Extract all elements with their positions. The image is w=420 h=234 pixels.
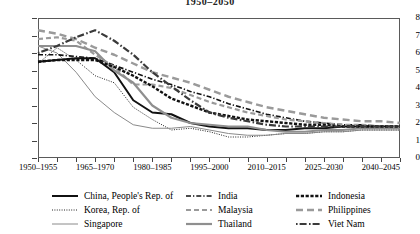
legend-swatch-china [52, 191, 78, 201]
legend-swatch-india [186, 191, 212, 201]
x-tick-mark [57, 158, 58, 162]
legend-item-indonesia[interactable]: Indonesia [296, 189, 371, 203]
legend-item-china[interactable]: China, People's Rep. of [52, 189, 173, 203]
legend-column: China, People's Rep. ofKorea, Rep. ofSin… [52, 189, 173, 231]
legend-item-thailand[interactable]: Thailand [186, 217, 253, 231]
legend-label: Thailand [218, 219, 252, 229]
x-tick-label: 1995–2000 [183, 163, 235, 172]
y-tick-mark [32, 53, 37, 54]
legend-swatch-malaysia [186, 205, 212, 215]
legend-item-india[interactable]: India [186, 189, 253, 203]
legend-label: Viet Nam [328, 219, 365, 229]
legend-label: Philippines [328, 205, 371, 215]
legend-label: India [218, 191, 238, 201]
y-tick-label: 6 [394, 48, 420, 57]
x-tick-label: 2040–2045 [355, 163, 407, 172]
y-tick-mark [32, 71, 37, 72]
y-tick-mark [32, 18, 37, 19]
x-tick-label: 1965–1970 [69, 163, 121, 172]
y-tick-mark [32, 106, 37, 107]
y-tick-label: 4 [394, 83, 420, 92]
y-tick-mark [32, 36, 37, 37]
chart-figure: 1950–2050 012345678 1950–19551965–197019… [0, 0, 420, 234]
x-tick-label: 2010–2015 [241, 163, 293, 172]
x-tick-mark [229, 158, 230, 162]
x-tick-mark [286, 158, 287, 162]
legend-label: Singapore [84, 219, 123, 229]
legend-label: Korea, Rep. of [84, 205, 140, 215]
legend-label: Malaysia [218, 205, 253, 215]
legend-item-philippines[interactable]: Philippines [296, 203, 371, 217]
legend-label: Indonesia [328, 191, 365, 201]
y-tick-mark [32, 141, 37, 142]
x-tick-mark [400, 158, 401, 162]
legend-item-malaysia[interactable]: Malaysia [186, 203, 253, 217]
legend-swatch-indonesia [296, 191, 322, 201]
x-tick-mark [171, 158, 172, 162]
legend-item-singapore[interactable]: Singapore [52, 217, 173, 231]
line-series-vietnam [38, 30, 400, 126]
legend-swatch-vietnam [296, 219, 322, 229]
legend-column: IndiaMalaysiaThailand [186, 189, 253, 231]
legend-swatch-korea [52, 205, 78, 215]
y-tick-mark [32, 158, 37, 159]
x-tick-mark [343, 158, 344, 162]
chart-title: 1950–2050 [0, 0, 420, 5]
y-tick-label: 3 [394, 101, 420, 110]
y-tick-mark [32, 123, 37, 124]
legend-swatch-thailand [186, 219, 212, 229]
series-lines [38, 18, 400, 158]
legend-item-vietnam[interactable]: Viet Nam [296, 217, 371, 231]
line-series-philippines [38, 30, 400, 123]
x-tick-label: 2025–2030 [298, 163, 350, 172]
x-tick-label: 1980–1985 [126, 163, 178, 172]
legend-label: China, People's Rep. of [84, 191, 173, 201]
y-tick-label: 8 [394, 13, 420, 22]
y-tick-label: 2 [394, 118, 420, 127]
y-tick-label: 0 [394, 153, 420, 162]
y-tick-label: 5 [394, 66, 420, 75]
legend-swatch-philippines [296, 205, 322, 215]
y-tick-label: 1 [394, 136, 420, 145]
chart-legend: China, People's Rep. ofKorea, Rep. ofSin… [52, 189, 414, 231]
legend-swatch-singapore [52, 219, 78, 229]
y-tick-mark [32, 88, 37, 89]
plot-area [38, 18, 400, 158]
legend-item-korea[interactable]: Korea, Rep. of [52, 203, 173, 217]
y-tick-label: 7 [394, 31, 420, 40]
x-tick-label: 1950–1955 [12, 163, 64, 172]
legend-column: IndonesiaPhilippinesViet Nam [296, 189, 371, 231]
x-tick-mark [114, 158, 115, 162]
